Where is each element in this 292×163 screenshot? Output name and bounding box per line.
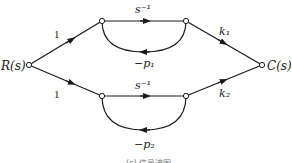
- upper-feedback-gain-label: −p₁: [134, 57, 155, 70]
- figure-caption: (c) 信号流图: [126, 158, 171, 163]
- branch-lower-input: [29, 65, 102, 96]
- upper-output-gain-label: k₁: [219, 25, 230, 38]
- node-input: [26, 62, 31, 67]
- node-upper-left: [99, 18, 104, 23]
- lower-input-gain-label: 1: [54, 88, 60, 100]
- node-upper-right: [183, 18, 188, 23]
- branch-upper-feedback: [102, 21, 186, 52]
- output-label: C(s): [267, 59, 292, 73]
- lower-output-gain-label: k₂: [219, 87, 230, 100]
- lower-feedback-gain-label: −p₂: [134, 138, 155, 151]
- input-label: R(s): [0, 59, 26, 73]
- signal-flow-graph: R(s) C(s) 1 1 s⁻¹ s⁻¹ −p₁ −p₂ k₁ k₂ (c) …: [0, 0, 292, 163]
- node-output: [259, 62, 264, 67]
- node-lower-left: [99, 93, 104, 98]
- upper-input-gain-label: 1: [54, 28, 60, 40]
- upper-forward-gain-label: s⁻¹: [135, 3, 151, 16]
- branch-lower-feedback: [102, 96, 186, 130]
- branch-upper-input: [29, 21, 102, 65]
- node-lower-right: [183, 93, 188, 98]
- lower-forward-gain-label: s⁻¹: [135, 79, 151, 92]
